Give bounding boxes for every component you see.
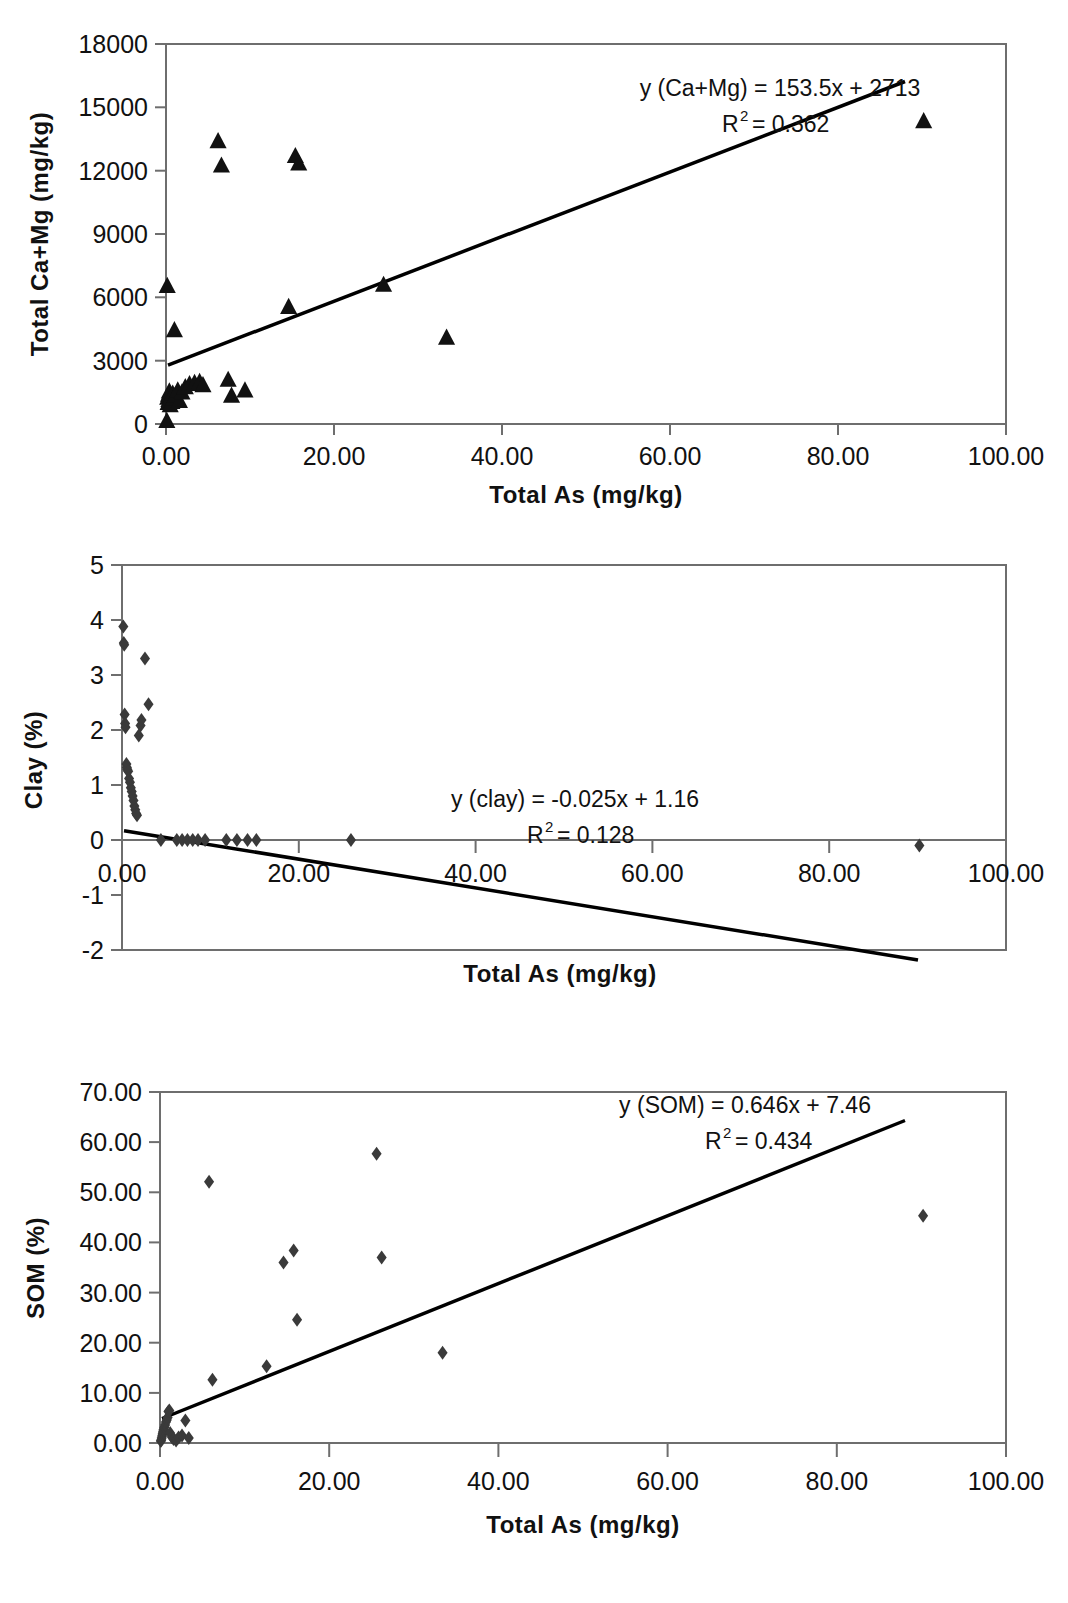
x-tick-label: 0.00 [142, 442, 191, 470]
r2-label: R 2 = 0.128 [527, 818, 634, 848]
y-tick-label: -2 [82, 936, 104, 964]
r2-superscript: 2 [545, 818, 553, 835]
y-tick-label: 70.00 [79, 1078, 142, 1106]
x-tick-label: 80.00 [806, 1467, 869, 1495]
r2-prefix: R [722, 111, 739, 137]
panel-som: 0.00 10.00 20.00 30.00 40.00 50.00 60.00… [0, 1000, 1068, 1603]
x-axis-title: Total As (mg/kg) [489, 481, 682, 508]
y-tick-marks [149, 1092, 160, 1443]
x-tick-label: 40.00 [471, 442, 534, 470]
y-tick-label: 50.00 [79, 1178, 142, 1206]
x-tick-marks [160, 1443, 1006, 1457]
y-tick-label: 0 [90, 826, 104, 854]
plot-frame [166, 44, 1006, 424]
y-tick-marks [111, 565, 122, 950]
plot-frame [122, 565, 1006, 950]
y-tick-label: 5 [90, 551, 104, 579]
r2-value: = 0.434 [735, 1128, 813, 1154]
x-tick-label: 40.00 [467, 1467, 530, 1495]
figure-container: 0 3000 6000 9000 12000 15000 18000 0.00 … [0, 0, 1068, 1603]
x-tick-label: 20.00 [303, 442, 366, 470]
x-tick-label: 0.00 [98, 859, 147, 887]
equation-label: y (clay) = -0.025x + 1.16 [451, 786, 699, 812]
y-tick-label: 0.00 [93, 1429, 142, 1457]
y-axis-title: SOM (%) [22, 1217, 49, 1319]
x-tick-label: 80.00 [798, 859, 861, 887]
equation-label: y (SOM) = 0.646x + 7.46 [619, 1092, 871, 1118]
r2-prefix: R [705, 1128, 722, 1154]
y-tick-label: 30.00 [79, 1279, 142, 1307]
y-tick-label: 6000 [92, 283, 148, 311]
panel-ca-mg: 0 3000 6000 9000 12000 15000 18000 0.00 … [0, 0, 1068, 510]
y-tick-label: 18000 [78, 30, 148, 58]
y-tick-label: 15000 [78, 93, 148, 121]
x-tick-label: 60.00 [636, 1467, 699, 1495]
x-tick-label: 60.00 [639, 442, 702, 470]
plot-frame [160, 1092, 1006, 1443]
x-tick-label: 100.00 [968, 442, 1044, 470]
y-axis-title: Total Ca+Mg (mg/kg) [26, 112, 53, 356]
x-axis-title: Total As (mg/kg) [486, 1511, 679, 1538]
x-tick-label: 0.00 [136, 1467, 185, 1495]
x-tick-label: 100.00 [968, 1467, 1044, 1495]
x-tick-label: 60.00 [621, 859, 684, 887]
y-tick-label: 10.00 [79, 1379, 142, 1407]
r2-superscript: 2 [740, 107, 748, 124]
y-tick-label: 0 [134, 410, 148, 438]
y-tick-label: 1 [90, 771, 104, 799]
y-tick-label: 2 [90, 716, 104, 744]
x-tick-label: 100.00 [968, 859, 1044, 887]
y-tick-marks [155, 44, 166, 424]
y-tick-label: 60.00 [79, 1128, 142, 1156]
y-tick-label: 3000 [92, 347, 148, 375]
r2-prefix: R [527, 822, 544, 848]
y-tick-label: 3 [90, 661, 104, 689]
x-tick-label: 80.00 [807, 442, 870, 470]
y-tick-label: 9000 [92, 220, 148, 248]
r2-value: = 0.362 [752, 111, 829, 137]
x-axis-title: Total As (mg/kg) [463, 960, 656, 987]
r2-superscript: 2 [723, 1124, 731, 1141]
r2-label: R 2 = 0.434 [705, 1124, 813, 1154]
r2-label: R 2 = 0.362 [722, 107, 829, 137]
y-tick-label: 20.00 [79, 1329, 142, 1357]
r2-value: = 0.128 [557, 822, 634, 848]
y-tick-label: 4 [90, 606, 104, 634]
equation-label: y (Ca+Mg) = 153.5x + 2713 [640, 75, 921, 101]
x-tick-marks [166, 424, 1006, 435]
y-tick-label: 40.00 [79, 1228, 142, 1256]
y-axis-title: Clay (%) [20, 711, 47, 810]
panel-clay: 5 4 3 2 1 0 -1 -2 0.00 20.00 40.00 60.00… [0, 510, 1068, 1000]
x-tick-label: 20.00 [298, 1467, 361, 1495]
y-tick-label: 12000 [78, 157, 148, 185]
